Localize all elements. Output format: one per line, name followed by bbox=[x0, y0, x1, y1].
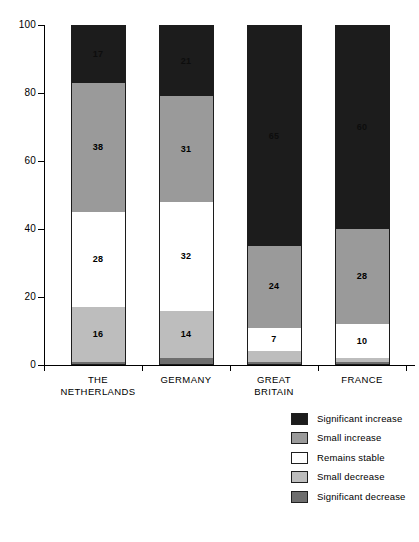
bar-segment[interactable]: 65 bbox=[247, 25, 302, 246]
legend-item[interactable]: Small decrease bbox=[291, 468, 419, 488]
y-tick-label: 80 bbox=[2, 88, 36, 98]
bar-segment[interactable]: 17 bbox=[71, 25, 126, 83]
bar-segment-value: 60 bbox=[357, 123, 368, 132]
bar-segment-value: 21 bbox=[181, 57, 192, 66]
bar-stack[interactable]: 17382816 bbox=[71, 25, 126, 365]
x-tick-mark bbox=[142, 365, 143, 371]
bar-segment-value: 28 bbox=[93, 255, 104, 264]
x-category-label-line: NETHERLANDS bbox=[43, 386, 153, 398]
bar-stack[interactable]: 602810 bbox=[335, 25, 390, 365]
bar-segment[interactable]: 7 bbox=[247, 328, 302, 352]
bar-segment[interactable]: 31 bbox=[159, 96, 214, 201]
legend-label: Significant increase bbox=[317, 414, 402, 424]
legend-swatch bbox=[291, 432, 308, 444]
bar-segment[interactable]: 16 bbox=[71, 307, 126, 361]
bar-segment-value: 14 bbox=[181, 330, 192, 339]
bar-segment[interactable] bbox=[247, 362, 302, 365]
bar-segment-value: 28 bbox=[357, 272, 368, 281]
x-category-label: FRANCE bbox=[307, 374, 417, 386]
x-tick-mark bbox=[230, 365, 231, 371]
bar-segment[interactable] bbox=[247, 351, 302, 361]
legend-label: Remains stable bbox=[317, 453, 385, 463]
bar-segment[interactable] bbox=[159, 358, 214, 365]
x-tick-mark bbox=[318, 365, 319, 371]
plot-area: 100806040200 173828162131321465247602810… bbox=[0, 0, 419, 400]
legend-label: Small decrease bbox=[317, 472, 385, 482]
legend-swatch bbox=[291, 413, 308, 425]
y-tick-label: 60 bbox=[2, 156, 36, 166]
bar-segment[interactable]: 10 bbox=[335, 324, 390, 358]
bar-segment-value: 32 bbox=[181, 252, 192, 261]
y-tick-mark bbox=[38, 229, 45, 230]
bar-segment-value: 10 bbox=[357, 337, 368, 346]
bar-segment[interactable]: 21 bbox=[159, 25, 214, 96]
bar-stack[interactable]: 65247 bbox=[247, 25, 302, 365]
bar-segment[interactable]: 28 bbox=[335, 229, 390, 324]
x-tick-mark bbox=[406, 365, 407, 371]
bar-segment-value: 24 bbox=[269, 282, 280, 291]
y-tick-label: 100 bbox=[2, 20, 36, 30]
y-tick-label: 0 bbox=[2, 360, 36, 370]
legend-swatch bbox=[291, 452, 308, 464]
y-tick-label: 40 bbox=[2, 224, 36, 234]
x-category-label-line: BRITAIN bbox=[219, 386, 329, 398]
y-tick-mark bbox=[38, 93, 45, 94]
y-tick-mark bbox=[38, 161, 45, 162]
y-axis-line bbox=[44, 25, 45, 365]
legend-swatch bbox=[291, 491, 308, 503]
bar-segment[interactable]: 32 bbox=[159, 202, 214, 311]
bar-segment-value: 65 bbox=[269, 132, 280, 141]
bar-segment[interactable]: 38 bbox=[71, 83, 126, 212]
bar-segment[interactable] bbox=[71, 362, 126, 365]
bar-segment-value: 16 bbox=[93, 330, 104, 339]
legend-item[interactable]: Significant increase bbox=[291, 409, 419, 429]
legend-item[interactable]: Significant decrease bbox=[291, 487, 419, 507]
bar-segment-value: 7 bbox=[271, 335, 276, 344]
bar-segment[interactable]: 24 bbox=[247, 246, 302, 328]
legend-item[interactable]: Small increase bbox=[291, 429, 419, 449]
bar-segment[interactable] bbox=[335, 362, 390, 365]
stacked-bar-chart: 100806040200 173828162131321465247602810… bbox=[0, 0, 419, 542]
y-tick-label: 20 bbox=[2, 292, 36, 302]
legend-swatch bbox=[291, 471, 308, 483]
bar-segment[interactable]: 60 bbox=[335, 25, 390, 229]
bar-stack[interactable]: 21313214 bbox=[159, 25, 214, 365]
y-tick-mark bbox=[38, 297, 45, 298]
legend-label: Small increase bbox=[317, 433, 381, 443]
y-tick-mark bbox=[38, 25, 45, 26]
chart-legend: Significant increaseSmall increaseRemain… bbox=[291, 409, 419, 507]
legend-label: Significant decrease bbox=[317, 492, 406, 502]
bar-segment-value: 17 bbox=[93, 50, 104, 59]
x-tick-mark bbox=[44, 365, 45, 371]
bar-segment-value: 31 bbox=[181, 145, 192, 154]
bar-segment[interactable]: 14 bbox=[159, 311, 214, 359]
bar-segment-value: 38 bbox=[93, 143, 104, 152]
legend-item[interactable]: Remains stable bbox=[291, 448, 419, 468]
x-category-label-line: FRANCE bbox=[307, 374, 417, 386]
bar-segment[interactable]: 28 bbox=[71, 212, 126, 307]
